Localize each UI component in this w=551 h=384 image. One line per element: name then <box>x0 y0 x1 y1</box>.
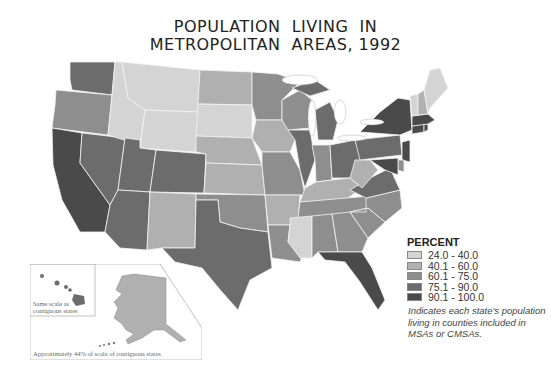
legend-label: 90.1 - 100.0 <box>428 292 484 302</box>
lake-huron <box>334 100 346 124</box>
legend-swatch <box>407 293 422 301</box>
lake-superior <box>282 75 318 85</box>
state-NJ <box>402 140 410 162</box>
state-OR <box>52 90 112 135</box>
legend-title: PERCENT <box>407 236 547 248</box>
state-RI <box>424 124 428 132</box>
legend-label: 40.1 - 60.0 <box>428 261 478 271</box>
alaska-hawaii-inset: Same scale as contiguous states Approxim… <box>30 264 202 360</box>
legend-item: 90.1 - 100.0 <box>407 292 547 303</box>
state-NM <box>147 192 196 250</box>
legend-item: 24.0 - 40.0 <box>407 250 547 261</box>
aleutian-islands <box>99 342 115 347</box>
state-KS <box>204 163 265 195</box>
state-IN <box>312 145 332 182</box>
legend-label: 60.1 - 75.0 <box>428 271 478 281</box>
legend-note: Indicates each state's population living… <box>408 305 548 340</box>
lake-michigan <box>308 100 316 136</box>
legend-swatch <box>407 272 422 280</box>
alaska <box>114 274 186 344</box>
state-WY <box>140 110 198 152</box>
state-NY <box>360 98 412 135</box>
state-NE <box>196 136 262 165</box>
legend-label: 75.1 - 90.0 <box>428 282 478 292</box>
legend-item: 60.1 - 75.0 <box>407 271 547 282</box>
state-SD <box>196 104 252 138</box>
state-ME <box>424 68 448 114</box>
state-CO <box>150 150 206 193</box>
legend: PERCENT 24.0 - 40.0 40.1 - 60.0 60.1 - 7… <box>407 236 547 303</box>
alaska-caption: Approximately 44% of scale of contiguous… <box>33 350 203 357</box>
legend-swatch <box>407 251 422 259</box>
legend-label: 24.0 - 40.0 <box>428 250 478 260</box>
lake-erie <box>338 135 366 141</box>
state-DE <box>398 160 404 172</box>
state-FL <box>318 252 385 310</box>
legend-swatch <box>407 262 422 270</box>
state-WA <box>70 62 115 95</box>
lake-ontario <box>360 119 384 125</box>
state-ND <box>198 70 252 105</box>
legend-swatch <box>407 283 422 291</box>
hawaii-caption: Same scale as contiguous states <box>33 300 88 314</box>
